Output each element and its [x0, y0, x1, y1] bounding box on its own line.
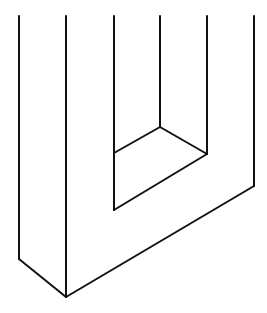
impossible-u-figure [0, 0, 267, 313]
bottom-right-diagonal [66, 186, 254, 297]
inner-bottom-diagonal [114, 154, 207, 210]
inner-top-right-diagonal [160, 127, 207, 154]
bottom-left-diagonal [19, 259, 66, 297]
inner-top-left-diagonal [114, 127, 160, 153]
